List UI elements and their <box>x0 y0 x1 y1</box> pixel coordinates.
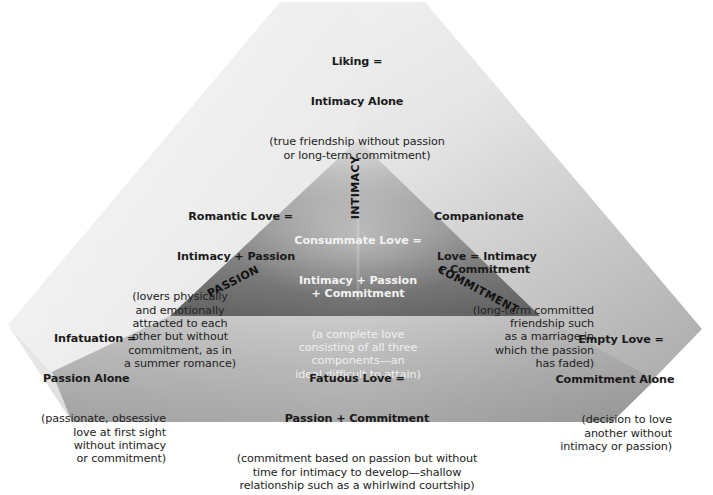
fatuous-title-line1: Fatuous Love = <box>232 372 482 385</box>
empty-title-line2: Commitment Alone <box>546 373 676 386</box>
label-fatuous-love: Fatuous Love = Passion + Commitment (com… <box>232 345 482 495</box>
consummate-title-line1: Consummate Love = <box>268 234 448 247</box>
label-liking: Liking = Intimacy Alone (true friendship… <box>262 28 452 189</box>
empty-description: (decision to love another without intima… <box>546 413 676 453</box>
fatuous-title-line2: Passion + Commitment <box>232 412 482 425</box>
companionate-title-line2: Love = Intimacy + Commitment <box>434 250 604 277</box>
label-empty-love: Empty Love = Commitment Alone (decision … <box>546 306 676 480</box>
fatuous-description: (commitment based on passion but without… <box>232 452 482 492</box>
infatuation-description: (passionate, obsessive love at first sig… <box>36 412 166 466</box>
liking-title-line1: Liking = <box>262 55 452 68</box>
infatuation-title-line2: Passion Alone <box>36 372 166 385</box>
consummate-title-line2: Intimacy + Passion + Commitment <box>268 274 448 301</box>
liking-description: (true friendship without passion or long… <box>262 135 452 162</box>
companionate-title-line1: Companionate <box>434 210 604 223</box>
infatuation-title-line1: Infatuation = <box>36 332 166 345</box>
liking-title-line2: Intimacy Alone <box>262 95 452 108</box>
empty-title-line1: Empty Love = <box>546 333 676 346</box>
label-infatuation: Infatuation = Passion Alone (passionate,… <box>36 305 166 493</box>
